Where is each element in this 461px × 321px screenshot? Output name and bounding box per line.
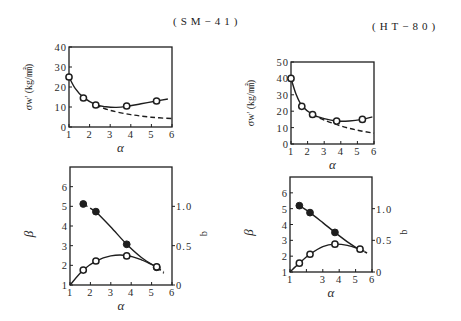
filled-circle-marker <box>307 209 314 216</box>
y-tick-label: 20 <box>55 82 68 93</box>
y2-axis-label: q <box>200 231 211 237</box>
x-tick-label: 3 <box>320 274 326 285</box>
y-tick-label: 6 <box>62 182 68 193</box>
y-tick-label: 30 <box>55 62 68 73</box>
x-tick-label: 4 <box>338 146 344 157</box>
plot-ht80-beta-q: 1345612345600.51.0αβq <box>241 177 411 300</box>
y-tick-label: 10 <box>277 123 290 134</box>
filled-circle-marker <box>80 201 87 208</box>
y-tick-label: 40 <box>277 73 290 84</box>
open-circle-marker <box>66 74 72 80</box>
filled-circle-marker <box>93 208 100 215</box>
x-tick-label: 4 <box>128 287 134 298</box>
series-stress <box>288 75 374 133</box>
x-tick-label: 6 <box>169 287 175 298</box>
open-circle-marker <box>299 103 305 109</box>
y2-axis-label: q <box>400 229 411 235</box>
x-tick-label: 3 <box>321 146 327 157</box>
x-tick-label: 6 <box>369 274 375 285</box>
open-circle-marker <box>309 111 315 117</box>
plot-sm41-stress: 123456010203040ασw' (kg/㎟) <box>23 42 175 155</box>
open-circle-marker <box>80 267 86 273</box>
y-tick-label: 3 <box>62 241 68 252</box>
y-tick-label: 10 <box>55 102 68 113</box>
x-tick-label: 6 <box>169 129 175 140</box>
x-tick-label: 2 <box>304 146 310 157</box>
y-axis-label: σw' (kg/㎟) <box>23 64 35 110</box>
x-axis-label: α <box>117 140 125 155</box>
y2-tick-label: 1.0 <box>376 204 392 215</box>
open-circle-marker <box>124 103 130 109</box>
x-tick-label: 3 <box>107 129 113 140</box>
fit-curve-solid <box>290 244 360 272</box>
y-tick-label: 0 <box>61 122 67 133</box>
y-tick-label: 50 <box>277 57 290 68</box>
x-tick-label: 5 <box>354 146 360 157</box>
y2-tick-label: 0.5 <box>376 235 392 246</box>
x-axis-label: α <box>328 285 336 300</box>
x-tick-label: 5 <box>148 129 154 140</box>
open-circle-marker <box>93 102 99 108</box>
open-circle-marker <box>296 260 302 266</box>
x-tick-label: 6 <box>371 146 377 157</box>
y-tick-label: 6 <box>282 188 288 199</box>
y-tick-label: 20 <box>277 106 290 117</box>
y-tick-label: 4 <box>282 220 288 231</box>
fit-curve-solid <box>291 78 372 121</box>
x-axis-label: α <box>118 298 126 313</box>
plot-sm41-beta-q: 12345612345600.51.0αβq <box>21 167 211 313</box>
x-tick-label: 4 <box>336 274 342 285</box>
y2-tick-label: 0 <box>376 267 382 278</box>
y-axis-label: β <box>21 230 36 238</box>
series-q <box>70 253 164 285</box>
x-axis-label: α <box>329 157 337 172</box>
x-tick-label: 3 <box>108 287 114 298</box>
y-tick-label: 1 <box>282 267 288 278</box>
x-tick-label: 2 <box>86 129 92 140</box>
y-tick-label: 30 <box>277 90 290 101</box>
y-tick-label: 2 <box>282 251 288 262</box>
y-axis-label: σw' (kg/㎟) <box>245 80 257 126</box>
y-tick-label: 40 <box>55 42 68 53</box>
open-circle-marker <box>332 241 338 247</box>
y-tick-label: 0 <box>283 139 289 150</box>
plot-frame <box>69 47 172 127</box>
open-circle-marker <box>307 251 313 257</box>
open-circle-marker <box>153 98 159 104</box>
y2-tick-label: 0 <box>176 280 182 291</box>
x-tick-label: 2 <box>87 287 93 298</box>
y-tick-label: 1 <box>62 280 68 291</box>
x-tick-label: 5 <box>148 287 154 298</box>
y-axis-label: β <box>241 229 256 237</box>
open-circle-marker <box>80 95 86 101</box>
open-circle-marker <box>334 118 340 124</box>
open-circle-marker <box>288 75 294 81</box>
y-tick-label: 5 <box>282 204 288 215</box>
y-tick-label: 3 <box>282 235 288 246</box>
y-tick-label: 5 <box>62 201 68 212</box>
x-tick-label: 5 <box>352 274 358 285</box>
y-tick-label: 2 <box>62 260 68 271</box>
y2-tick-label: 0.5 <box>176 241 192 252</box>
plot-frame <box>290 177 372 272</box>
filled-circle-marker <box>123 241 130 248</box>
y-tick-label: 4 <box>62 221 68 232</box>
open-circle-marker <box>154 264 160 270</box>
fit-curve-solid <box>69 77 168 107</box>
series-q <box>290 241 366 272</box>
plot-ht80-stress: 12345601020304050ασw' (kg/㎟) <box>245 57 377 172</box>
x-tick-label: 4 <box>128 129 134 140</box>
open-circle-marker <box>357 246 363 252</box>
open-circle-marker <box>359 116 365 122</box>
open-circle-marker <box>124 253 130 259</box>
filled-circle-marker <box>296 202 303 209</box>
open-circle-marker <box>93 258 99 264</box>
y2-tick-label: 1.0 <box>176 201 192 212</box>
filled-circle-marker <box>332 229 339 236</box>
figure-canvas: 123456010203040ασw' (kg/㎟)12345601020304… <box>0 0 461 321</box>
series-stress <box>66 74 172 119</box>
